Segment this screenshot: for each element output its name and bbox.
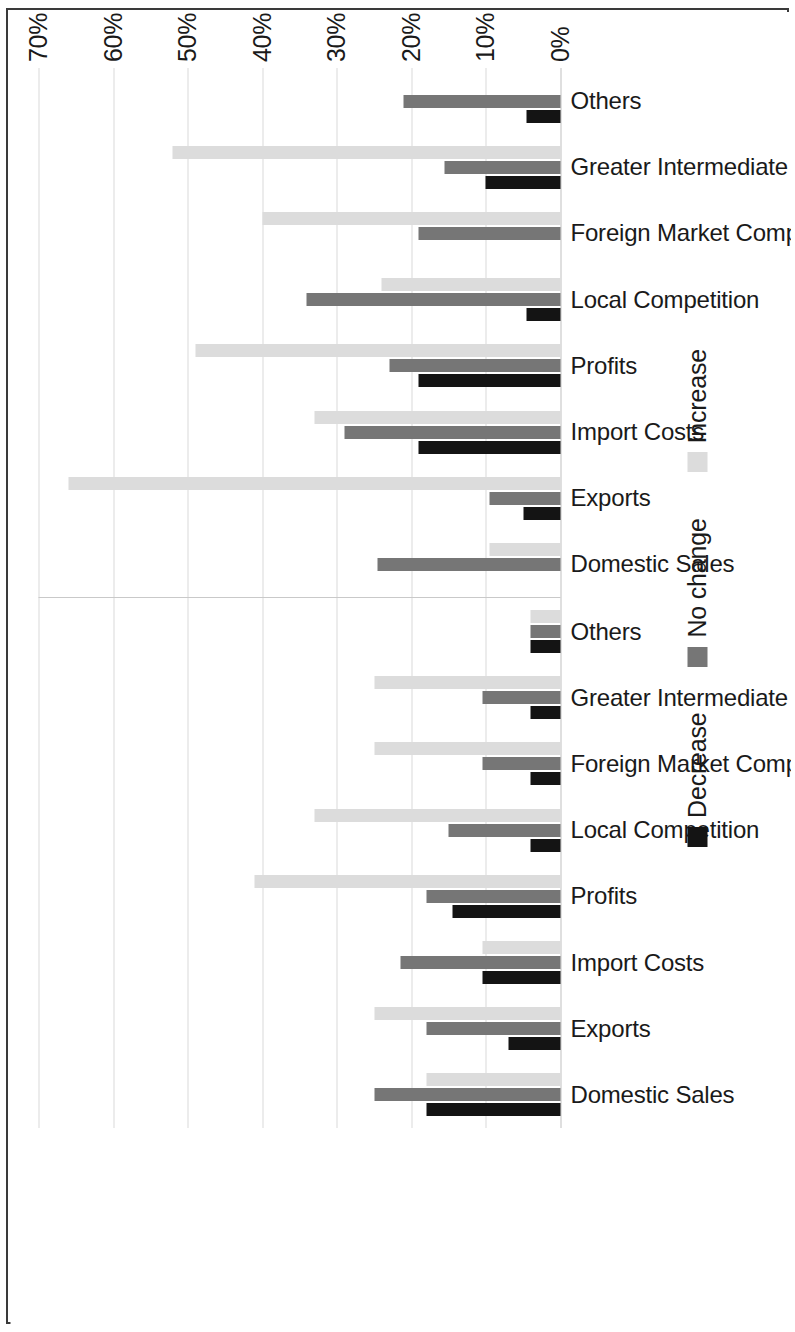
bar bbox=[381, 278, 560, 291]
bar bbox=[262, 212, 560, 225]
category-label: Greater Intermediate Input Access bbox=[570, 153, 791, 181]
bar bbox=[452, 905, 560, 918]
category-cluster: Profits bbox=[38, 333, 560, 399]
bar-group: Domestic SalesExportsImport CostsProfits… bbox=[38, 599, 560, 1129]
legend-swatch-icon bbox=[687, 647, 707, 667]
bar bbox=[195, 344, 560, 357]
bar bbox=[508, 1037, 560, 1050]
tick-label: 40% bbox=[247, 10, 276, 62]
bar bbox=[523, 507, 560, 520]
category-label: Local Competition bbox=[570, 286, 759, 314]
bar bbox=[418, 227, 560, 240]
bar-groups: Domestic SalesExportsImport CostsProfits… bbox=[38, 68, 560, 1128]
category-cluster: Local Competition bbox=[38, 797, 560, 863]
category-cluster: Import Costs bbox=[38, 929, 560, 995]
bar bbox=[426, 1022, 560, 1035]
bar bbox=[530, 640, 560, 653]
chart-page-frame: 0%10%20%30%40%50%60%70% Domestic SalesEx… bbox=[6, 8, 789, 1324]
bar bbox=[374, 676, 560, 689]
bar bbox=[418, 374, 560, 387]
plot-area: 0%10%20%30%40%50%60%70% Domestic SalesEx… bbox=[38, 68, 560, 1128]
tick-label: 0% bbox=[546, 10, 575, 62]
bar bbox=[403, 95, 560, 108]
category-label: Exports bbox=[570, 484, 650, 512]
bar bbox=[389, 359, 561, 372]
bar bbox=[254, 875, 560, 888]
bar bbox=[374, 1007, 560, 1020]
bar bbox=[377, 558, 560, 571]
tick-label: 70% bbox=[24, 10, 53, 62]
category-cluster: Foreign Market Competition bbox=[38, 731, 560, 797]
bar bbox=[482, 971, 560, 984]
legend-item: No change bbox=[682, 518, 711, 666]
rotated-chart-wrapper: 0%10%20%30%40%50%60%70% Domestic SalesEx… bbox=[8, 10, 791, 1326]
bar bbox=[530, 610, 560, 623]
tick-label: 20% bbox=[396, 10, 425, 62]
bar bbox=[426, 1073, 560, 1086]
category-cluster: Others bbox=[38, 68, 560, 134]
legend-item: Increase bbox=[682, 349, 711, 472]
tick-label: 60% bbox=[98, 10, 127, 62]
legend-label: No change bbox=[682, 518, 711, 637]
bar bbox=[526, 110, 560, 123]
bar bbox=[426, 890, 560, 903]
bar bbox=[374, 1088, 560, 1101]
legend-label: Increase bbox=[682, 349, 711, 443]
category-label: Local Competition bbox=[570, 816, 759, 844]
bar bbox=[314, 411, 560, 424]
bar bbox=[68, 477, 560, 490]
category-cluster: Import Costs bbox=[38, 399, 560, 465]
bar bbox=[374, 742, 560, 755]
tick-label: 30% bbox=[322, 10, 351, 62]
category-cluster: Others bbox=[38, 599, 560, 665]
bar-group: Domestic SalesExportsImport CostsProfits… bbox=[38, 68, 560, 599]
legend-item: Decrease bbox=[682, 713, 711, 847]
bar bbox=[530, 839, 560, 852]
bar bbox=[418, 441, 560, 454]
bar bbox=[400, 956, 560, 969]
tick-label: 50% bbox=[173, 10, 202, 62]
bar bbox=[482, 757, 560, 770]
tick-label: 10% bbox=[471, 10, 500, 62]
bar bbox=[344, 426, 560, 439]
bar bbox=[482, 691, 560, 704]
category-cluster: Domestic Sales bbox=[38, 531, 560, 597]
legend-swatch-icon bbox=[687, 452, 707, 472]
category-label: Exports bbox=[570, 1015, 650, 1043]
chart-legend: DecreaseNo changeIncrease bbox=[682, 68, 711, 1128]
bar bbox=[485, 176, 560, 189]
bar bbox=[306, 293, 560, 306]
category-label: Greater Intermediate Input Access bbox=[570, 684, 791, 712]
category-cluster: Domestic Sales bbox=[38, 1062, 560, 1128]
category-cluster: Profits bbox=[38, 863, 560, 929]
grouped-bar-chart: 0%10%20%30%40%50%60%70% Domestic SalesEx… bbox=[10, 12, 789, 1324]
category-label: Profits bbox=[570, 882, 637, 910]
bar bbox=[489, 543, 560, 556]
category-cluster: Exports bbox=[38, 465, 560, 531]
bar bbox=[530, 772, 560, 785]
category-label: Others bbox=[570, 618, 641, 646]
bar bbox=[530, 625, 560, 638]
bar bbox=[172, 146, 560, 159]
category-cluster: Exports bbox=[38, 996, 560, 1062]
category-label: Foreign Market Competition bbox=[570, 219, 791, 247]
bar bbox=[482, 941, 560, 954]
category-label: Foreign Market Competition bbox=[570, 750, 791, 778]
bar bbox=[526, 308, 560, 321]
bar bbox=[314, 809, 560, 822]
category-cluster: Local Competition bbox=[38, 267, 560, 333]
category-cluster: Greater Intermediate Input Access bbox=[38, 134, 560, 200]
bar bbox=[489, 492, 560, 505]
bar bbox=[426, 1103, 560, 1116]
bar bbox=[448, 824, 560, 837]
category-label: Profits bbox=[570, 352, 637, 380]
bar bbox=[530, 706, 560, 719]
legend-swatch-icon bbox=[687, 827, 707, 847]
legend-label: Decrease bbox=[682, 713, 711, 818]
category-label: Others bbox=[570, 87, 641, 115]
category-cluster: Greater Intermediate Input Access bbox=[38, 665, 560, 731]
bar bbox=[444, 161, 560, 174]
category-cluster: Foreign Market Competition bbox=[38, 200, 560, 266]
